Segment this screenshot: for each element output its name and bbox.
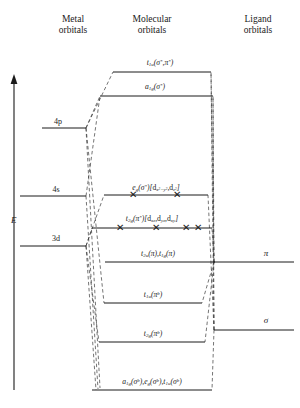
mo-level-label-t1u-pi-b: t1u(πb)	[144, 290, 163, 299]
column-heading-line1: Molecular	[107, 14, 197, 25]
mo-diagram: MetalorbitalsMolecularorbitalsLigandorbi…	[0, 0, 300, 408]
mo-level-label-a1g-sigma-star: a1g(σ*)	[145, 82, 165, 91]
column-heading-molecular: Molecularorbitals	[107, 14, 197, 36]
column-heading-line2: orbitals	[213, 25, 300, 36]
column-heading-line1: Ligand	[213, 14, 300, 25]
connector-line	[86, 128, 104, 303]
column-heading-ligand: Ligandorbitals	[213, 14, 300, 36]
energy-axis	[11, 74, 18, 390]
mo-level-label-t2u-t1g-pi: t2u(π),t1g(π)	[141, 249, 175, 258]
electron-mark-eg-sigma-star: ✕	[129, 190, 137, 200]
mo-level-label-t1u-sigma-pi-star: t1u(σ*,π*)	[147, 58, 174, 67]
mo-level-label-a1g-eg-t1u-sigma-b: a1g(σb),eg(σb),t1u(σb)	[122, 377, 182, 386]
ligand-level-label-sigma: σ	[264, 315, 268, 325]
metal-level-label-3d: 3d	[52, 234, 60, 243]
column-heading-line2: orbitals	[28, 25, 118, 36]
electron-mark-t2g-pi-star: ✕	[152, 223, 160, 233]
connector-line	[212, 330, 214, 390]
column-heading-line1: Metal	[28, 14, 118, 25]
ligand-level-label-pi: π	[264, 248, 269, 258]
connector-line	[205, 262, 214, 342]
connector-line	[86, 246, 96, 390]
electron-mark-eg-sigma-star: ✕	[173, 190, 181, 200]
electron-mark-t2g-pi-star: ✕	[182, 223, 190, 233]
mo-level-label-t2g-pi-b: t2g(πb)	[144, 329, 163, 338]
electron-mark-t2g-pi-star: ✕	[194, 223, 202, 233]
metal-level-label-4p: 4p	[54, 117, 62, 126]
column-heading-metal: Metalorbitals	[28, 14, 118, 36]
column-heading-line2: orbitals	[107, 25, 197, 36]
connector-line	[86, 228, 92, 246]
metal-level-label-4s: 4s	[52, 185, 59, 194]
electron-mark-t2g-pi-star: ✕	[116, 223, 124, 233]
energy-axis-arrow	[11, 74, 18, 84]
energy-axis-label: E	[11, 215, 17, 225]
